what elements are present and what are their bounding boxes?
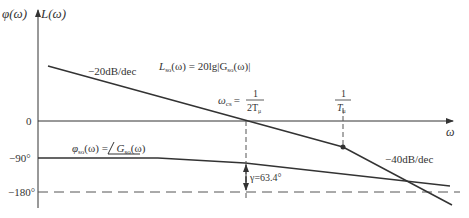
crossover-numerator: 1	[253, 88, 258, 99]
tick-zero: 0	[26, 115, 32, 127]
slope-40-label: −40dB/dec	[385, 153, 433, 165]
corner-denominator: Tμ	[337, 102, 346, 114]
crossover-label: ωcs=	[218, 94, 240, 108]
magnitude-equation: Lso(ω) = 20lg|Gso(ω)|	[158, 60, 250, 74]
crossover-denominator: 2Tμ	[247, 102, 261, 114]
y-left-label: φ(ω)	[2, 6, 27, 21]
corner-numerator: 1	[341, 88, 346, 99]
y-right-label: L(ω)	[40, 6, 66, 21]
magnitude-asymptote	[48, 66, 452, 205]
x-label: ω	[446, 125, 454, 139]
diagram-canvas: φ(ω) L(ω) ω 0 −90° −180° −20dB/dec −40dB…	[0, 0, 469, 218]
tick-minus90: −90°	[9, 152, 31, 164]
phase-margin-label: γ=63.4°	[249, 172, 282, 183]
tick-minus180: −180°	[8, 186, 35, 198]
slope-20-label: −20dB/dec	[88, 65, 136, 77]
bode-diagram: φ(ω) L(ω) ω 0 −90° −180° −20dB/dec −40dB…	[0, 0, 469, 218]
